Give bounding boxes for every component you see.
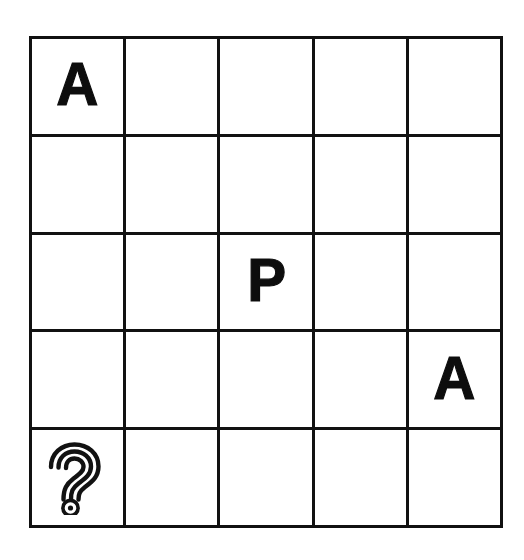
grid-cell-r2c1[interactable] xyxy=(32,137,126,235)
grid-cell-r4c4[interactable] xyxy=(315,332,409,430)
cell-letter: A xyxy=(57,53,99,115)
grid-cell-r2c5[interactable] xyxy=(409,137,503,235)
grid-cell-r3c5[interactable] xyxy=(409,235,503,333)
question-mark-icon xyxy=(42,441,108,515)
grid-cell-r2c3[interactable] xyxy=(220,137,314,235)
puzzle-grid: A xyxy=(29,36,503,528)
grid-cell-r1c1[interactable]: A xyxy=(32,39,126,137)
grid-cell-r2c4[interactable] xyxy=(315,137,409,235)
grid-cell-r5c1[interactable] xyxy=(32,430,126,528)
grid-cell-r5c5[interactable] xyxy=(409,430,503,528)
grid-cell-r3c2[interactable] xyxy=(126,235,220,333)
grid-cell-r5c4[interactable] xyxy=(315,430,409,528)
grid-cell-r1c4[interactable] xyxy=(315,39,409,137)
grid-cell-r1c3[interactable] xyxy=(220,39,314,137)
grid-cell-r5c3[interactable] xyxy=(220,430,314,528)
grid-cell-r1c5[interactable] xyxy=(409,39,503,137)
grid-cell-r2c2[interactable] xyxy=(126,137,220,235)
grid-cell-r1c2[interactable] xyxy=(126,39,220,137)
grid-cell-r3c1[interactable] xyxy=(32,235,126,333)
grid-cell-r3c3[interactable]: P xyxy=(220,235,314,333)
grid-cell-r4c5[interactable]: A xyxy=(409,332,503,430)
grid-cell-r3c4[interactable] xyxy=(315,235,409,333)
grid-cell-r4c3[interactable] xyxy=(220,332,314,430)
grid-cell-r5c2[interactable] xyxy=(126,430,220,528)
cell-letter: A xyxy=(434,347,476,409)
grid-cell-r4c2[interactable] xyxy=(126,332,220,430)
puzzle-canvas: A xyxy=(0,0,524,560)
grid-cell-r4c1[interactable] xyxy=(32,332,126,430)
cell-letter: P xyxy=(247,249,285,311)
